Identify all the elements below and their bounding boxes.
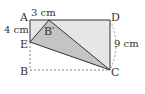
label-B-prime: B′ xyxy=(44,25,55,38)
label-C: C xyxy=(111,66,119,79)
label-A: A xyxy=(19,11,29,24)
measurement-AB-prime: 3 cm xyxy=(31,7,56,18)
label-D: D xyxy=(111,11,120,24)
measurement-DC: 9 cm xyxy=(114,38,139,49)
geometry-diagram: A D E B C B′ 3 cm 4 cm 9 cm xyxy=(0,0,145,94)
measurement-AE: 4 cm xyxy=(4,24,29,35)
label-E: E xyxy=(20,38,28,51)
label-B: B xyxy=(20,65,28,78)
